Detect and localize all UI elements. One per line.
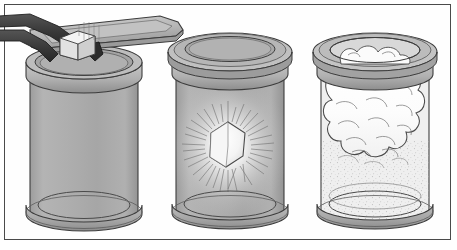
jar-1-hotspot[interactable] [26,56,144,228]
figure-canvas: Tongs lower a white cube of dry ice into… [0,0,457,250]
jar-3-hotspot[interactable] [313,33,437,228]
jar-2-hotspot[interactable] [168,33,292,228]
